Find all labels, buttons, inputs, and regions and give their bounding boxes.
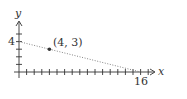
x-axis-label: x [158,65,165,78]
y-tick-label-4: 4 [8,35,15,48]
chart: y x 4 16 (4, 3) [0,0,187,99]
x-tick-label-16: 16 [134,75,148,88]
point-label: (4, 3) [53,36,83,49]
y-axis-label: y [14,7,22,20]
data-point [48,47,52,51]
